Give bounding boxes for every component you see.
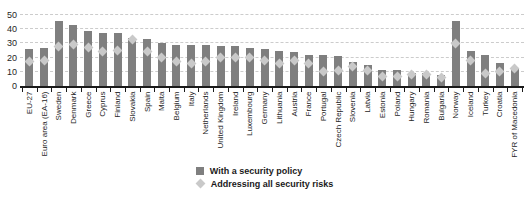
x-axis-label: Italy xyxy=(185,92,196,164)
legend-box: With a security policy Addressing all se… xyxy=(196,164,334,190)
x-axis-tick xyxy=(257,88,258,92)
x-axis-tick xyxy=(390,88,391,92)
chart-legend: With a security policy Addressing all se… xyxy=(0,164,529,191)
x-axis-label: Croatia xyxy=(494,92,505,164)
x-axis-label: Spain xyxy=(141,92,152,164)
x-axis-tick xyxy=(301,88,302,92)
gridline-30 xyxy=(20,42,524,43)
x-axis-tick xyxy=(316,88,317,92)
x-axis-label: Sweden xyxy=(53,92,64,164)
bar xyxy=(452,21,460,86)
x-axis-label: Greece xyxy=(82,92,93,164)
x-axis-tick xyxy=(287,88,288,92)
bar xyxy=(84,31,92,86)
x-axis-tick xyxy=(81,88,82,92)
x-axis-tick xyxy=(140,88,141,92)
x-axis-label: Portugal xyxy=(317,92,328,164)
x-axis-label: Poland xyxy=(391,92,402,164)
x-axis-tick xyxy=(243,88,244,92)
x-axis-label: France xyxy=(303,92,314,164)
x-axis-tick xyxy=(360,88,361,92)
bar xyxy=(99,33,107,86)
legend-item-security-risks: Addressing all security risks xyxy=(196,177,334,190)
x-axis-label: Belgium xyxy=(170,92,181,164)
x-axis-tick xyxy=(463,88,464,92)
x-axis-label: Latvia xyxy=(362,92,373,164)
x-axis-tick xyxy=(522,88,523,92)
x-axis-tick xyxy=(169,88,170,92)
x-axis-tick xyxy=(66,88,67,92)
x-axis-tick xyxy=(434,88,435,92)
x-axis-label: Iceland xyxy=(465,92,476,164)
bar xyxy=(114,33,122,86)
legend-label-security-policy: With a security policy xyxy=(210,166,302,176)
x-axis-label: Euro area (EA-16) xyxy=(38,92,49,164)
bar xyxy=(55,21,63,86)
x-axis-label: FYR of Macedonia xyxy=(509,92,520,164)
bar xyxy=(25,49,33,86)
bar xyxy=(69,25,77,86)
x-axis-tick xyxy=(346,88,347,92)
x-axis-tick xyxy=(125,88,126,92)
x-axis-tick xyxy=(37,88,38,92)
bar xyxy=(261,49,269,86)
x-axis-tick xyxy=(22,88,23,92)
x-axis-label: EU-27 xyxy=(23,92,34,164)
x-axis-label: Netherlands xyxy=(200,92,211,164)
x-axis-tick xyxy=(331,88,332,92)
gridline-20 xyxy=(20,57,524,58)
x-axis-tick xyxy=(507,88,508,92)
x-axis-tick xyxy=(478,88,479,92)
x-axis-tick xyxy=(154,88,155,92)
x-axis-label: Slovenia xyxy=(347,92,358,164)
x-axis-label: Finland xyxy=(112,92,123,164)
x-axis-label: Malta xyxy=(156,92,167,164)
x-axis-label: United Kingdom xyxy=(215,92,226,164)
x-axis-label: Lithuania xyxy=(273,92,284,164)
x-axis-tick xyxy=(213,88,214,92)
x-axis-label: Germany xyxy=(259,92,270,164)
security-policy-bar-chart: 01020304050EU-27Euro area (EA-16)SwedenD… xyxy=(0,0,529,203)
y-axis-label: 0 xyxy=(0,81,17,91)
x-axis-label: Hungary xyxy=(406,92,417,164)
x-axis-label: Estonia xyxy=(376,92,387,164)
x-axis-tick xyxy=(228,88,229,92)
legend-item-security-policy: With a security policy xyxy=(196,164,334,177)
x-axis-label: Luxembourg xyxy=(244,92,255,164)
x-axis-label: Romania xyxy=(420,92,431,164)
bar xyxy=(40,48,48,86)
x-axis-label: Turkey xyxy=(479,92,490,164)
x-axis-tick xyxy=(493,88,494,92)
x-axis-tick xyxy=(272,88,273,92)
legend-label-security-risks: Addressing all security risks xyxy=(211,179,334,189)
bar xyxy=(158,43,166,86)
x-axis-label: Denmark xyxy=(67,92,78,164)
diamond-swatch-icon xyxy=(195,179,205,189)
x-axis-tick xyxy=(96,88,97,92)
x-axis-label: Slovakia xyxy=(126,92,137,164)
bar-swatch-icon xyxy=(196,167,204,175)
x-axis-tick xyxy=(448,88,449,92)
gridline-10 xyxy=(20,71,524,72)
x-axis-tick xyxy=(419,88,420,92)
y-axis-label: 40 xyxy=(0,24,17,34)
x-axis-tick xyxy=(404,88,405,92)
x-axis-label: Ireland xyxy=(229,92,240,164)
x-axis-label: Norway xyxy=(450,92,461,164)
y-axis-label: 30 xyxy=(0,38,17,48)
x-axis-tick xyxy=(198,88,199,92)
x-axis-tick xyxy=(375,88,376,92)
x-axis-tick xyxy=(51,88,52,92)
y-axis-label: 10 xyxy=(0,67,17,77)
bar xyxy=(128,38,136,86)
y-axis-label: 20 xyxy=(0,53,17,63)
gridline-40 xyxy=(20,28,524,29)
x-axis-label: Czech Republic xyxy=(332,92,343,164)
x-axis-label: Austria xyxy=(288,92,299,164)
gridline-50 xyxy=(20,14,524,15)
y-axis-label: 50 xyxy=(0,10,17,20)
x-axis-tick xyxy=(110,88,111,92)
x-axis-label: Bulgaria xyxy=(435,92,446,164)
x-axis-tick xyxy=(184,88,185,92)
x-axis-label: Cyprus xyxy=(97,92,108,164)
